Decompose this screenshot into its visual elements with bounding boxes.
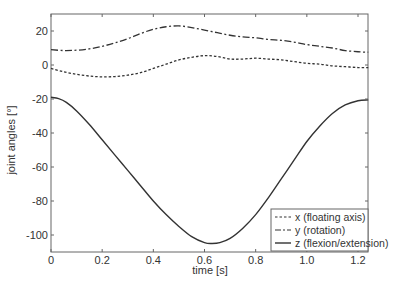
y-tick-label: -60	[32, 161, 48, 173]
legend: x (floating axis) y (rotation) z (flexio…	[271, 209, 388, 251]
x-tick-label: 0.8	[248, 254, 263, 266]
y-tick-label: 0	[42, 59, 48, 71]
x-tick-label: 1.0	[299, 254, 314, 266]
legend-label: x (floating axis)	[295, 211, 366, 223]
x-tick-label: 0.4	[146, 254, 161, 266]
y-axis-label: joint angles [°]	[5, 105, 17, 175]
legend-label: z (flexion/extension)	[295, 237, 388, 249]
line-chart: 00.20.40.60.81.01.2 200-20-40-60-80-100 …	[0, 0, 398, 286]
x-axis-label: time [s]	[192, 264, 227, 276]
x-tick-label: 0	[48, 254, 54, 266]
x-tick-label: 0.2	[95, 254, 110, 266]
y-tick-label: -40	[32, 127, 48, 139]
y-tick-label: 20	[36, 25, 48, 37]
x-tick-label: 1.2	[350, 254, 365, 266]
y-tick-label: -100	[26, 229, 48, 241]
y-tick-label: -80	[32, 195, 48, 207]
y-tick-label: -20	[32, 93, 48, 105]
legend-label: y (rotation)	[295, 224, 345, 236]
